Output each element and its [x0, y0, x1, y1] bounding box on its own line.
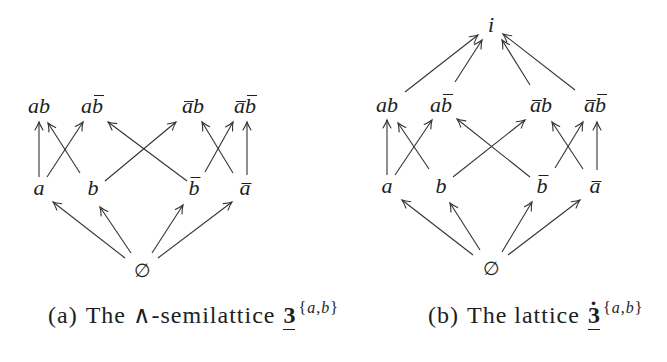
edge-empty-to-b — [100, 207, 131, 253]
node-char: b — [39, 95, 50, 117]
node-b: b — [88, 177, 99, 199]
caption-symbol-glyph: 3 — [283, 302, 296, 328]
edge-b-to-abar-b — [453, 120, 525, 177]
node-char: b — [88, 177, 99, 199]
node-char: b — [387, 94, 398, 116]
caption-tag: (a) — [48, 302, 78, 328]
empty-set-symbol: ∅ — [134, 260, 151, 280]
node-bbar: b — [537, 175, 548, 197]
sup-var-a: a — [307, 299, 316, 316]
sup-brace-open: { — [298, 299, 307, 316]
edge-bbar-to-a-bbar — [108, 122, 187, 181]
node-char: a — [34, 177, 45, 199]
edge-b-to-abar-b — [105, 122, 176, 181]
edge-empty-to-b — [450, 203, 480, 250]
node-char-overlined: b — [537, 175, 548, 197]
caption-text: The ∧-semilattice — [86, 302, 276, 328]
diagram-a-edges — [39, 122, 247, 258]
caption-symbol: 3 — [283, 303, 296, 327]
node-abar-bbar: ab — [584, 94, 606, 116]
edge-bbar-to-a-bbar — [457, 119, 530, 177]
caption-a: (a)The ∧-semilattice3{a,b} — [48, 303, 339, 330]
node-empty-set: ∅ — [134, 260, 151, 280]
caption-b: (b)The lattice3˙{a,b} — [428, 303, 643, 330]
node-abar-bbar: ab — [234, 95, 256, 117]
node-char: a — [81, 95, 92, 117]
edge-b-to-ab — [398, 123, 429, 169]
caption-superscript: {a,b} — [298, 299, 338, 316]
node-abar: a — [590, 175, 601, 197]
caption-symbol: 3˙ — [588, 303, 601, 327]
node-abar-b: ab — [530, 94, 552, 116]
node-char-overlined: b — [92, 95, 103, 117]
sup-brace-close: } — [330, 299, 339, 316]
node-char-overlined: b — [595, 94, 606, 116]
edge-bbar-to-abar-bbar — [555, 122, 583, 168]
caption-text: The lattice — [467, 302, 580, 328]
edge-abar-bbar-to-i — [503, 34, 575, 90]
node-top-i: i — [488, 14, 494, 36]
node-ab: ab — [28, 95, 50, 117]
node-a: a — [382, 175, 393, 197]
edge-empty-to-abar — [508, 200, 580, 255]
node-char: a — [28, 95, 39, 117]
edge-empty-to-a — [402, 200, 473, 255]
edge-b-to-ab — [48, 123, 80, 173]
node-abar-b: ab — [182, 95, 204, 117]
node-char: b — [541, 94, 552, 116]
sup-var-b: b — [626, 299, 635, 316]
sup-var-b: b — [321, 299, 330, 316]
node-char-overlined: a — [240, 177, 251, 199]
node-char-overlined: a — [182, 95, 193, 117]
edge-empty-to-bbar — [502, 202, 532, 252]
node-char-overlined: a — [530, 94, 541, 116]
node-char-overlined: b — [441, 94, 452, 116]
node-char: i — [488, 14, 494, 36]
node-char-overlined: a — [590, 175, 601, 197]
sup-brace-open: { — [603, 299, 612, 316]
edge-empty-to-bbar — [152, 205, 183, 253]
node-b: b — [436, 175, 447, 197]
node-ab: ab — [376, 94, 398, 116]
sup-var-a: a — [612, 299, 621, 316]
node-a-bbar: ab — [430, 94, 452, 116]
node-char-overlined: b — [245, 95, 256, 117]
node-empty-set: ∅ — [483, 258, 500, 278]
node-bbar: b — [189, 177, 200, 199]
node-char: b — [193, 95, 204, 117]
edge-abar-b-to-i — [502, 40, 530, 85]
node-char-overlined: b — [189, 177, 200, 199]
diagram-b-edges — [387, 34, 597, 255]
edge-a-to-a-bbar — [395, 120, 432, 175]
node-char-overlined: a — [584, 94, 595, 116]
node-char: a — [430, 94, 441, 116]
node-char: a — [382, 175, 393, 197]
edge-bbar-to-abar-bbar — [205, 122, 233, 172]
edge-a-bbar-to-i — [455, 40, 482, 82]
empty-set-symbol: ∅ — [483, 258, 500, 278]
edge-empty-to-a — [53, 202, 125, 258]
edge-empty-to-abar — [158, 202, 232, 258]
node-char: a — [376, 94, 387, 116]
node-a-bbar: ab — [81, 95, 103, 117]
node-a: a — [34, 177, 45, 199]
sup-brace-close: } — [635, 299, 644, 316]
node-abar: a — [240, 177, 251, 199]
figure-canvas: ab ab ab ab a b b a ∅ (a)The ∧-semilatti… — [0, 0, 667, 362]
node-char: b — [436, 175, 447, 197]
caption-superscript: {a,b} — [603, 299, 643, 316]
node-char-overlined: a — [234, 95, 245, 117]
caption-tag: (b) — [428, 302, 459, 328]
dot-accent-icon: ˙ — [588, 298, 600, 322]
